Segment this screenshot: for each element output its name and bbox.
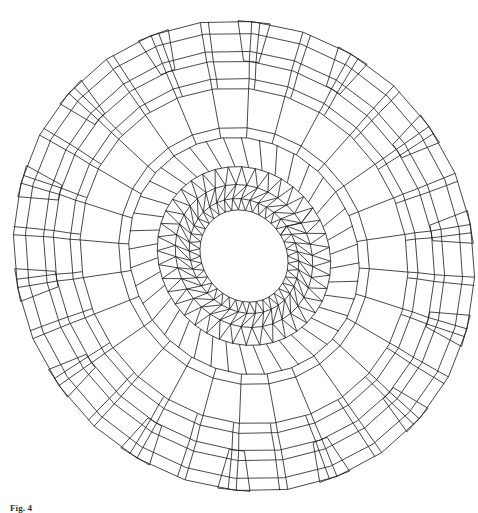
caption-label: Fig. 4 bbox=[10, 503, 32, 513]
wireframe-disk-figure bbox=[0, 0, 478, 500]
wireframe-mesh bbox=[0, 0, 478, 500]
figure-caption: Fig. 4 bbox=[10, 503, 470, 513]
